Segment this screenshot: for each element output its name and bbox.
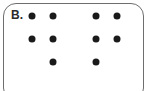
left-group-dot bbox=[29, 36, 36, 43]
right-group-dot bbox=[114, 13, 121, 20]
right-group-dot bbox=[93, 59, 100, 66]
right-group-dot bbox=[93, 36, 100, 43]
left-group-dot bbox=[50, 13, 57, 20]
left-group-dot bbox=[29, 13, 36, 20]
diagram-frame bbox=[3, 3, 144, 91]
left-group-dot bbox=[50, 36, 57, 43]
left-group-dot bbox=[50, 59, 57, 66]
right-group-dot bbox=[93, 13, 100, 20]
right-group-dot bbox=[114, 36, 121, 43]
diagram-label: B. bbox=[11, 8, 23, 22]
